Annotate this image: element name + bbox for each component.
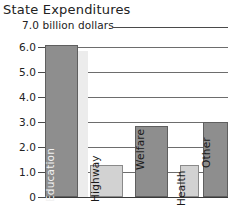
tick-3 (38, 122, 45, 123)
y-axis-label-2: 2.0 (0, 141, 36, 153)
tick-5 (38, 72, 45, 73)
bar-shadow-education (78, 51, 88, 197)
y-axis-unit-caption: 7.0 billion dollars (22, 19, 114, 31)
bar-label-education: Education (44, 148, 56, 202)
y-axis-label-4: 4.0 (0, 91, 36, 103)
x-axis-baseline (45, 197, 228, 198)
gridline-7 (113, 27, 228, 28)
y-axis-label-0: 0 (0, 191, 36, 203)
tick-4 (38, 97, 45, 98)
bar-label-other: Other (200, 137, 212, 168)
chart-title: State Expenditures (3, 2, 131, 17)
y-axis-label-5: 5.0 (0, 66, 36, 78)
y-axis-label-3: 3.0 (0, 116, 36, 128)
bar-label-welfare: Welfare (134, 129, 146, 170)
bar-label-highway: Highway (89, 155, 101, 202)
bar-label-health: Health (175, 170, 187, 206)
y-axis-label-6: 6.0 (0, 41, 36, 53)
y-axis-label-1: 1.0 (0, 166, 36, 178)
tick-6 (38, 47, 45, 48)
bar-chart: State Expenditures 7.0 billion dollars 6… (0, 0, 235, 211)
